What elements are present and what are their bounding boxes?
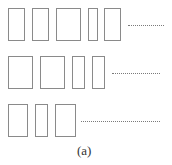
rectangle-box (92, 56, 105, 89)
figure-caption: (a) (77, 144, 91, 157)
rectangle-box (56, 8, 81, 41)
rectangle-box (8, 104, 28, 137)
rectangle-box (40, 56, 65, 89)
rectangle-box (32, 8, 49, 41)
ellipsis-dotted-line (112, 73, 160, 74)
rectangle-box (88, 8, 98, 41)
rectangle-box (72, 56, 85, 89)
rectangle-box (8, 8, 25, 41)
rectangle-box (55, 104, 76, 137)
rectangle-box (8, 56, 33, 89)
ellipsis-dotted-line (128, 25, 164, 26)
rectangle-box (35, 104, 48, 137)
ellipsis-dotted-line (81, 121, 160, 122)
rectangle-box (104, 8, 121, 41)
